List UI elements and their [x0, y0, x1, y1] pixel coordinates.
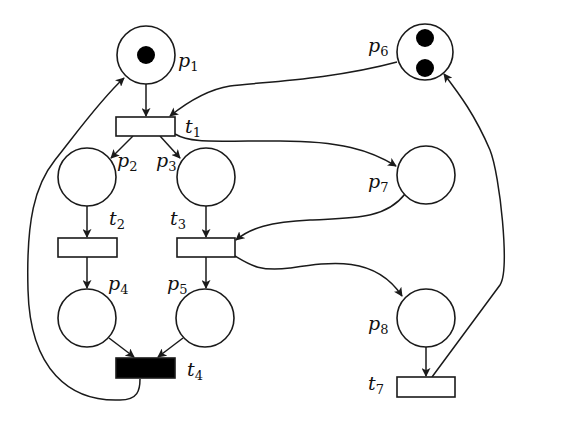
svg-text:p7: p7 [368, 170, 388, 195]
place-subscript: 8 [380, 322, 388, 337]
token [416, 59, 434, 77]
place-p5[interactable]: p5 [167, 272, 234, 347]
place-subscript: 5 [179, 282, 187, 297]
place-subscript: 2 [129, 159, 137, 174]
transition-t7[interactable]: t7 [368, 372, 455, 397]
place-p1[interactable]: p1 [117, 26, 198, 84]
arc-t3-p8 [235, 256, 402, 296]
place-p2[interactable]: p2 [58, 148, 137, 206]
petri-net-diagram: p1 p6 p2 p3 p7 p4 p5 p8 t1 t2 [0, 0, 573, 432]
transition-subscript: 7 [376, 382, 384, 397]
arc-p7-t3 [236, 194, 405, 240]
place-subscript: 4 [120, 282, 128, 297]
arcs [28, 62, 504, 400]
place-label: p [368, 170, 380, 192]
place-p6[interactable]: p6 [368, 24, 453, 80]
svg-text:p5: p5 [167, 272, 187, 297]
transition-t2[interactable]: t2 [58, 207, 125, 257]
place-label: p [368, 312, 380, 334]
svg-text:p8: p8 [368, 312, 388, 337]
token [416, 29, 434, 47]
arc-p5-t4 [158, 338, 183, 357]
svg-text:t3: t3 [170, 207, 186, 232]
transition-subscript: 4 [195, 368, 203, 383]
place-p3[interactable]: p3 [156, 148, 235, 206]
transition-subscript: 1 [193, 125, 201, 140]
arc-p4-t4 [109, 338, 134, 357]
svg-text:t7: t7 [368, 372, 384, 397]
place-label: p [156, 149, 168, 171]
token [137, 46, 155, 64]
place-p4[interactable]: p4 [58, 272, 128, 347]
place-subscript: 3 [168, 159, 176, 174]
svg-text:p1: p1 [178, 49, 198, 74]
transition-t3[interactable]: t3 [170, 207, 235, 257]
place-label: p [368, 34, 380, 56]
place-p7[interactable]: p7 [368, 146, 455, 204]
place-subscript: 6 [380, 44, 388, 59]
transition-t1[interactable]: t1 [116, 115, 201, 140]
place-p8[interactable]: p8 [368, 289, 455, 347]
svg-text:p4: p4 [108, 272, 128, 297]
svg-text:p2: p2 [117, 149, 137, 174]
place-label: p [117, 149, 129, 171]
svg-text:t1: t1 [185, 115, 201, 140]
transition-subscript: 3 [178, 217, 186, 232]
svg-text:t2: t2 [109, 207, 125, 232]
svg-text:p3: p3 [156, 149, 176, 174]
transition-t4[interactable]: t4 [116, 358, 203, 383]
arc-p6-t1 [170, 62, 397, 116]
svg-text:t4: t4 [187, 358, 203, 383]
place-subscript: 7 [380, 180, 388, 195]
place-subscript: 1 [190, 59, 198, 74]
place-label: p [178, 49, 190, 71]
place-label: p [108, 272, 120, 294]
transition-subscript: 2 [117, 217, 125, 232]
place-label: p [167, 272, 179, 294]
svg-text:p6: p6 [368, 34, 388, 59]
